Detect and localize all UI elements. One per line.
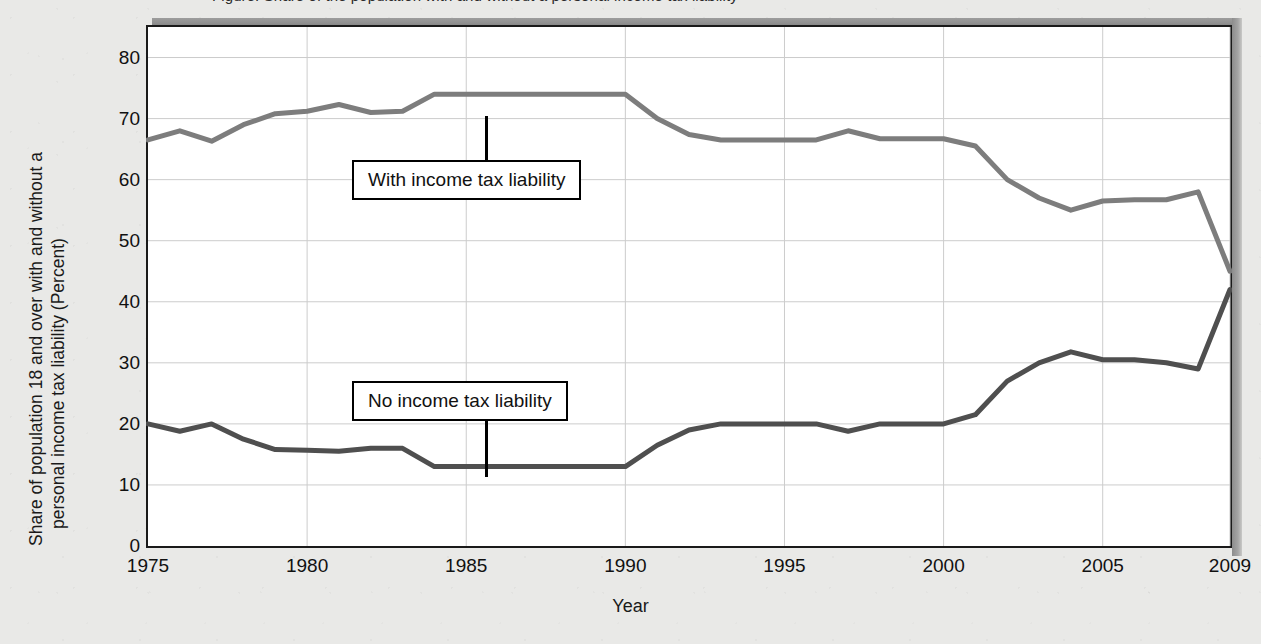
x-tick-label: 1990 (604, 556, 646, 575)
x-axis-tick-labels: 19751980198519901995200020052009 (0, 556, 1261, 586)
series-line-1 (148, 290, 1230, 467)
y-axis-title-line2: personal income tax liability (Percent) (48, 238, 69, 529)
callout-no-income-tax-liability: No income tax liability (352, 381, 568, 421)
line-chart-svg (146, 25, 1232, 548)
y-tick-label: 40 (100, 292, 140, 311)
y-tick-label: 70 (100, 109, 140, 128)
series-line-0 (148, 94, 1230, 271)
x-tick-label: 1985 (445, 556, 487, 575)
y-tick-label: 0 (100, 536, 140, 555)
x-tick-label: 1975 (127, 556, 169, 575)
y-tick-label: 80 (100, 48, 140, 67)
figure-title-clipped: Figure: Share of the population with and… (0, 0, 1261, 16)
callout-with-income-tax-liability: With income tax liability (352, 160, 581, 200)
y-axis-title-line1: Share of population 18 and over with and… (26, 152, 47, 546)
frame-shadow-right (1232, 18, 1242, 556)
y-tick-label: 10 (100, 475, 140, 494)
y-tick-label: 30 (100, 353, 140, 372)
x-tick-label: 2000 (922, 556, 964, 575)
leader-line-with (485, 116, 488, 162)
figure-title-text: Figure: Share of the population with and… (212, 0, 738, 4)
y-axis-tick-labels: 01020304050607080 (78, 0, 140, 644)
figure-root: Figure: Share of the population with and… (0, 0, 1261, 644)
y-tick-label: 60 (100, 170, 140, 189)
data-series-group (148, 94, 1230, 466)
gridlines-horizontal (148, 58, 1230, 485)
x-tick-label: 1980 (286, 556, 328, 575)
plot-area (146, 25, 1232, 548)
x-tick-label: 2005 (1082, 556, 1124, 575)
x-tick-label: 1995 (763, 556, 805, 575)
x-axis-title: Year (0, 596, 1261, 617)
leader-line-no (485, 419, 488, 477)
y-tick-label: 50 (100, 231, 140, 250)
y-tick-label: 20 (100, 414, 140, 433)
x-tick-label: 2009 (1209, 556, 1251, 575)
